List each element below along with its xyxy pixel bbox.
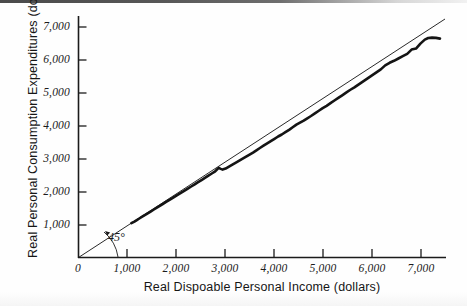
y-axis-ticks [79,27,87,225]
x-axis-ticks [127,249,421,258]
origin-tick-label-0: 0 [68,262,88,274]
consumption-data-curve [131,38,440,224]
angle-annotation-label: 45° [108,230,125,245]
plot-area [0,0,467,306]
y-axis-title: Real Personal Consumption Expenditures (… [26,18,40,258]
x-tick-label-7000: 7,000 [391,262,451,274]
scan-artifact-bottom-wash [0,292,467,306]
figure-container: 7,000 6,000 5,000 4,000 3,000 2,000 1,00… [0,0,467,306]
